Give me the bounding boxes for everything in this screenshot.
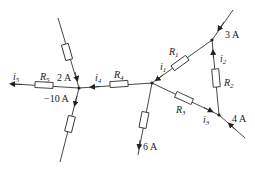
resistor-R4	[110, 80, 128, 87]
label-i1: i1	[160, 61, 166, 74]
resistor-R3	[175, 91, 194, 104]
label-R1: R1	[168, 46, 179, 59]
resistor-R1	[171, 55, 189, 70]
resistor-R2	[212, 69, 221, 88]
label-i5: i5	[13, 71, 20, 84]
label-i2: i2	[220, 53, 227, 66]
branch-R4	[79, 80, 152, 88]
label-3A: 3 A	[225, 29, 240, 40]
label-R3: R3	[175, 104, 186, 117]
resistor-left-top	[61, 43, 72, 60]
label-2A: 2 A	[57, 72, 72, 83]
circuit-diagram: i5 R5 2 A −10 A i4 R4 i1 R1 3 A i2 R2 R3…	[0, 0, 255, 170]
resistor-bottom	[139, 111, 149, 128]
label-R2: R2	[223, 77, 234, 90]
label-i3: i3	[203, 114, 210, 127]
label-4A: 4 A	[232, 113, 247, 124]
label-i4: i4	[95, 72, 102, 85]
label-6A: 6 A	[143, 141, 158, 152]
label-R4: R4	[113, 69, 124, 82]
label-minus-10A: −10 A	[44, 93, 70, 104]
resistor-R5	[35, 82, 53, 89]
left-node-branches	[12, 18, 81, 162]
resistor-left-bottom	[65, 115, 76, 132]
